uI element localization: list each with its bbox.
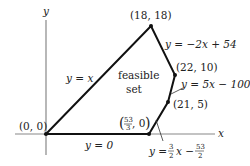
vertex-dot: [147, 132, 151, 136]
vertex-dot: [149, 24, 153, 28]
paren-close: ): [145, 115, 150, 131]
feasible-region-diagram: x y (0, 0) (18, 18) (22, 10) (21, 5) ( 5…: [0, 0, 250, 166]
edge-label-y-eq-x: y = x: [65, 72, 93, 84]
vertex-label-53-3-0: ( 53 3 , 0 ): [119, 115, 150, 132]
frac-num: 53: [196, 143, 205, 151]
vertex-dot: [44, 132, 48, 136]
y-axis-label: y: [42, 5, 50, 17]
eq-mid: x −: [176, 145, 194, 157]
edge-label-3-2x-minus-53-2: y = 3 2 x − 53 2: [148, 143, 205, 160]
vertex-dot: [173, 73, 177, 77]
region-label-set: set: [126, 83, 143, 95]
vertex-label-18-18: (18, 18): [130, 9, 172, 21]
edge-label-minus-2x-plus-54: y = −2x + 54: [164, 38, 237, 50]
frac-den: 3: [126, 124, 130, 132]
edge-label-5x-minus-100: y = 5x − 100: [180, 78, 250, 90]
region-label-feasible: feasible: [118, 69, 159, 81]
vertex-label-21-5: (21, 5): [173, 98, 208, 110]
x-axis-label: x: [218, 127, 224, 139]
eq-prefix: y =: [148, 145, 167, 157]
frac-num: 3: [169, 143, 173, 151]
frac-den: 2: [169, 152, 173, 160]
edge-label-y-eq-0: y = 0: [84, 139, 113, 151]
vertex-dot: [166, 100, 170, 104]
frac-den: 2: [198, 152, 202, 160]
vertex-label-origin: (0, 0): [19, 120, 47, 132]
vertex-label-22-10: (22, 10): [176, 61, 218, 73]
diagram-svg: x y (0, 0) (18, 18) (22, 10) (21, 5) ( 5…: [0, 0, 250, 166]
coord-rest: , 0: [132, 117, 145, 129]
leader-line: [156, 120, 163, 141]
